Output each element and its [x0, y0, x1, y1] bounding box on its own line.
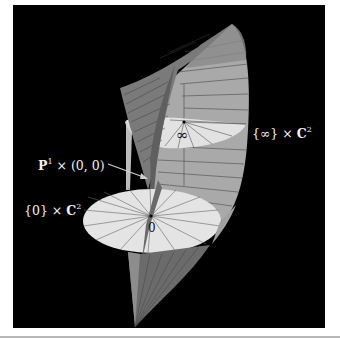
origin-point	[149, 214, 152, 217]
infinity-mark: ∞	[176, 128, 189, 143]
label-infinity-times-c2: {∞} × C2	[252, 128, 312, 141]
label-p1-times-origin: P1 × (0, 0)	[38, 160, 105, 173]
figure-canvas: P1 × (0, 0) {0} × C2 {∞} × C2 0 ∞	[13, 5, 325, 328]
label-zero-times-c2: {0} × C2	[24, 205, 81, 218]
origin-mark: 0	[148, 222, 156, 234]
lower-cone	[128, 245, 210, 327]
infinity-point	[182, 120, 185, 123]
caption-divider	[0, 336, 340, 338]
